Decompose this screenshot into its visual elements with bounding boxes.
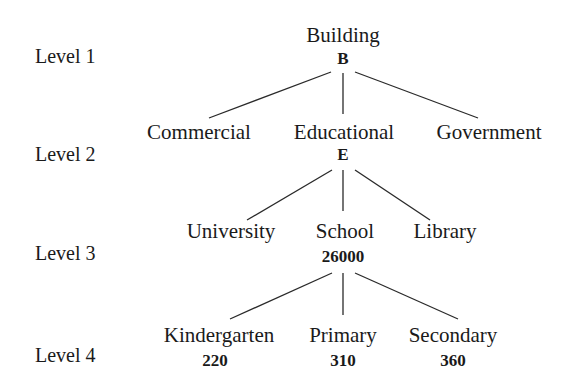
level-label: Level 4 <box>35 345 96 365</box>
edge-educational-library <box>355 170 430 220</box>
node-library-label: Library <box>414 221 477 242</box>
edge-educational-university <box>247 170 332 220</box>
level-label: Level 3 <box>35 243 96 263</box>
node-government-label: Government <box>437 122 542 143</box>
node-educational-label: Educational <box>294 122 394 143</box>
node-school-code: 26000 <box>322 248 365 265</box>
node-primary-code: 310 <box>330 352 356 369</box>
node-kindergarten-code: 220 <box>202 352 228 369</box>
edge-building-government <box>355 72 478 118</box>
node-commercial-label: Commercial <box>147 122 251 143</box>
edge-building-commercial <box>209 72 331 118</box>
node-secondary-label: Secondary <box>409 325 498 346</box>
node-building-label: Building <box>306 25 380 46</box>
hierarchy-diagram: Level 1 Level 2 Level 3 Level 4 Building… <box>0 0 573 392</box>
node-school-label: School <box>316 221 374 242</box>
node-educational-code: E <box>337 146 348 163</box>
edge-school-kindergarten <box>230 273 332 319</box>
level-label: Level 1 <box>35 46 96 66</box>
edge-school-secondary <box>355 273 458 319</box>
level-label: Level 2 <box>35 144 96 164</box>
node-university-label: University <box>187 221 276 242</box>
node-building-code: B <box>337 50 348 67</box>
node-kindergarten-label: Kindergarten <box>164 325 274 346</box>
node-primary-label: Primary <box>309 325 377 346</box>
node-secondary-code: 360 <box>440 352 466 369</box>
